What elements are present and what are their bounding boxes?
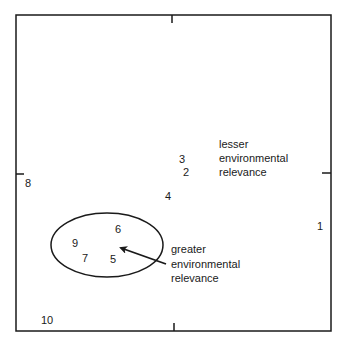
point-5: 5 [110,253,116,265]
annotation-lesser-line1: lesser [219,138,249,150]
group-ellipse [51,213,163,277]
annotation-lesser-line2: environmental [219,152,288,164]
annotation-greater-line2: environmental [171,258,240,270]
point-labels: 1 2 3 4 5 6 7 8 9 10 [25,153,323,326]
annotation-greater-line3: relevance [171,272,219,284]
annotation-greater: greater environmental relevance [171,243,240,284]
point-8: 8 [25,177,31,189]
point-3: 3 [179,153,185,165]
annotation-greater-line1: greater [171,243,206,255]
point-4: 4 [165,190,171,202]
annotation-lesser-line3: relevance [219,166,267,178]
ordination-diagram: 1 2 3 4 5 6 7 8 9 10 lesser environmenta… [0,0,346,346]
annotation-lesser: lesser environmental relevance [219,138,288,178]
point-7: 7 [82,252,88,264]
point-2: 2 [183,166,189,178]
point-10: 10 [41,314,53,326]
point-6: 6 [115,223,121,235]
point-1: 1 [317,220,323,232]
point-9: 9 [72,237,78,249]
